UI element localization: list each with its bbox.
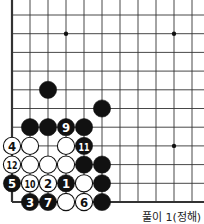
black-stone (75, 156, 92, 173)
white-stone (21, 137, 38, 154)
black-stone (75, 119, 92, 136)
move-number: 1 (62, 176, 70, 191)
black-stone: 5 (3, 175, 20, 192)
move-number: 10 (25, 178, 36, 191)
move-number: 5 (8, 176, 16, 191)
move-number: 4 (8, 139, 16, 154)
black-stone (93, 175, 110, 192)
white-stone (21, 156, 38, 173)
black-stone (93, 193, 110, 210)
white-stone (39, 156, 56, 173)
move-number: 11 (79, 141, 90, 154)
move-number: 12 (7, 159, 18, 172)
diagram-caption: 풀이 1(정해) (142, 208, 201, 224)
black-stone (93, 100, 110, 117)
black-stone (39, 81, 56, 98)
star-point (172, 32, 176, 36)
white-stone (57, 193, 74, 210)
black-stone (93, 156, 110, 173)
go-board: 94111251021376 (0, 0, 204, 224)
white-stone: 12 (3, 156, 20, 173)
black-stone: 11 (75, 137, 92, 154)
white-stone (75, 175, 92, 192)
move-number: 3 (26, 195, 34, 210)
black-stone: 7 (39, 193, 56, 210)
star-point (172, 144, 176, 148)
white-stone: 2 (39, 175, 56, 192)
white-stone (57, 156, 74, 173)
white-stone: 4 (3, 137, 20, 154)
star-point (64, 32, 68, 36)
black-stone (39, 119, 56, 136)
black-stone: 1 (57, 175, 74, 192)
white-stone (57, 137, 74, 154)
white-stone: 6 (75, 193, 92, 210)
move-number: 2 (44, 176, 52, 191)
move-number: 6 (80, 195, 88, 210)
black-stone: 9 (57, 119, 74, 136)
grid-lines (12, 0, 204, 202)
white-stone: 10 (21, 175, 38, 192)
black-stone: 3 (21, 193, 38, 210)
black-stone (21, 119, 38, 136)
move-number: 9 (62, 120, 70, 135)
move-number: 7 (44, 195, 52, 210)
